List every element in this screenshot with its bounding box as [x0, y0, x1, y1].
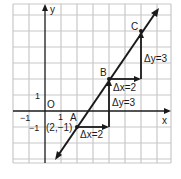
tick-x-pos1: 1 [58, 112, 63, 122]
point-a-marker [75, 125, 79, 129]
line-arrow-top-icon [151, 8, 159, 17]
coordinate-plane: y x O −1 1 1 −1 A (2,−1) B C Δx=2 Δy=3 Δ… [0, 0, 181, 179]
tick-x-neg1: −1 [20, 113, 30, 123]
point-a-coord: (2,−1) [46, 122, 72, 133]
point-c-marker [139, 29, 143, 33]
x-axis-label: x [162, 115, 167, 126]
dx2-label: Δx=2 [113, 82, 137, 93]
tick-y-pos1: 1 [35, 91, 40, 101]
y-axis-arrow-icon [42, 4, 48, 11]
point-c-label: C [131, 21, 138, 32]
tick-y-neg1: −1 [29, 123, 39, 133]
dy2-label: Δy=3 [144, 53, 168, 64]
origin-label: O [47, 99, 55, 110]
point-b-label: B [100, 67, 107, 78]
x-axis-arrow-icon [164, 108, 171, 114]
point-b-marker [107, 77, 111, 81]
dx1-label: Δx=2 [80, 129, 104, 140]
dy1-label: Δy=3 [112, 97, 136, 108]
y-axis-label: y [50, 4, 55, 15]
